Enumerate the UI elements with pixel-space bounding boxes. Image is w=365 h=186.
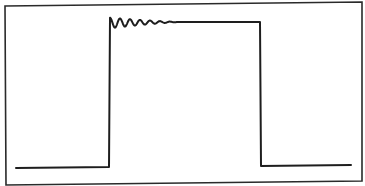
pulse-waveform-diagram: [0, 0, 365, 186]
pulse-waveform-trace: [16, 18, 351, 168]
diagram-frame: [5, 2, 362, 185]
